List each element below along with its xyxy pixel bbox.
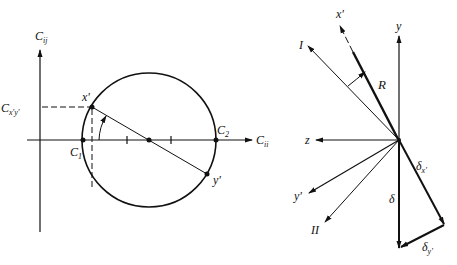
x-prime-axis: [340, 26, 353, 52]
y-label: y: [395, 19, 402, 33]
r-label: R: [377, 77, 386, 92]
axis-ii-label: II: [310, 223, 320, 237]
c1-label: C1: [70, 145, 82, 161]
y-prime-label: y': [212, 173, 221, 187]
delta-x-prime-label: δx': [416, 159, 427, 175]
c2-label: C2: [217, 123, 229, 139]
cii-axis-label: Cii: [256, 133, 268, 149]
x-prime-label: x': [81, 90, 90, 104]
angle-arc-right: [348, 72, 365, 86]
point-x-prime: [90, 105, 95, 110]
point-c2: [214, 138, 219, 143]
z-label: z: [304, 133, 310, 147]
cij-axis-label: Cij: [35, 29, 48, 45]
principal-axis-i: [308, 46, 399, 140]
point-center: [147, 138, 152, 143]
cxy-label: Cx'y': [1, 101, 20, 117]
x-prime-axis-label: x': [335, 7, 344, 21]
angle-arc: [99, 116, 106, 140]
mohr-circle-diagram: Cij Cii Cx'y' x' C1 C2 y': [1, 29, 268, 232]
axis-i-label: I: [298, 38, 304, 52]
delta-label: δ: [389, 192, 395, 206]
diagram-canvas: Cij Cii Cx'y' x' C1 C2 y' y: [0, 0, 457, 265]
delta-x-prime-vector: [399, 140, 444, 224]
point-c1: [81, 138, 86, 143]
principal-axis-ii: [325, 140, 399, 222]
vector-diagram: y x' R I z y' II δ δx' δy': [293, 7, 444, 256]
point-y-prime: [205, 172, 210, 177]
delta-y-prime-label: δy': [422, 240, 433, 256]
y-prime-axis-label: y': [293, 189, 302, 203]
r-vector: [353, 52, 398, 139]
origin-point: [397, 138, 401, 142]
y-prime-axis: [309, 140, 399, 193]
